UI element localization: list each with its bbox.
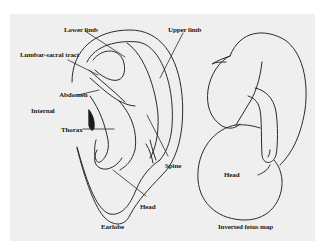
label-spine: Spine	[165, 162, 181, 170]
ear-fetus-diagram	[0, 0, 324, 250]
fetus-outline	[198, 33, 306, 220]
label-inverted-fetus-map: Inverted fetus map	[218, 223, 273, 231]
label-thorax: Thorax	[61, 126, 83, 134]
ear-outline	[72, 30, 183, 224]
label-ear-head: Head	[140, 203, 156, 211]
label-fetus-head: Head	[224, 171, 240, 179]
label-lower-limb: Lower limb	[64, 26, 98, 34]
label-abdomen: Abdomen	[59, 91, 87, 99]
label-earlobe: Earlobe	[101, 223, 124, 231]
label-upper-limb: Upper limb	[168, 26, 201, 34]
label-lumbar-sacral-tract: Lumbar-sacral tract	[20, 51, 79, 59]
label-internal: Internal	[31, 107, 55, 115]
